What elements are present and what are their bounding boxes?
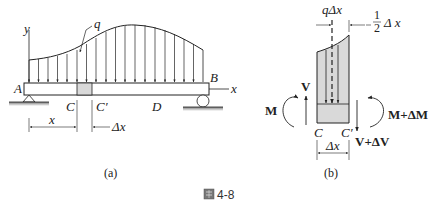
shear-v-label: V (301, 79, 311, 94)
point-b-label: B (210, 70, 218, 85)
load-arrows (29, 25, 194, 82)
pin-support-a (9, 95, 49, 106)
x-axis-label: x (230, 81, 237, 96)
load-label-q: q (94, 16, 101, 31)
moment-m-label: M (265, 103, 277, 118)
beam (24, 83, 209, 95)
point-a-label: A (13, 81, 22, 96)
dimension-x-label: x (48, 112, 55, 127)
point-c-prime-label: C′ (96, 99, 108, 114)
dimension-dx-label: Δx (111, 119, 126, 134)
shear-v-dv-label: V+ΔV (355, 134, 390, 149)
subfigure-label-b: (b) (324, 166, 338, 180)
point-d-label: D (151, 99, 162, 114)
caption-number: 4-8 (217, 188, 235, 202)
moment-m-arrow (283, 97, 298, 127)
resultant-load-label: qΔx (322, 2, 342, 17)
subfigure-label-a: (a) (104, 166, 117, 180)
element-dx-label: Δx (325, 138, 340, 153)
moment-m-dm-arrow (368, 98, 384, 127)
figure-icon (204, 189, 214, 199)
figure-caption: 4-8 (204, 188, 235, 202)
figure-b: qΔx 1 2 Δ x V M V+ΔV M+ΔM C C′ Δx (b) (265, 2, 428, 180)
moment-m-dm-label: M+ΔM (388, 107, 428, 122)
half-dx-label: Δ x (383, 15, 401, 30)
beam-element-cc (77, 83, 92, 95)
roller-support-b (183, 95, 223, 111)
distributed-load-curve (29, 25, 203, 60)
element-c-prime-label: C′ (341, 125, 353, 140)
figure-a: y q (9, 16, 237, 180)
element-c-label: C (314, 125, 323, 140)
shear-moment-diagram: y q (0, 0, 433, 211)
free-body-element (317, 35, 349, 123)
y-axis-label: y (22, 21, 30, 36)
point-c-label: C (66, 99, 75, 114)
half-denominator: 2 (374, 21, 380, 35)
half-numerator: 1 (374, 8, 380, 22)
